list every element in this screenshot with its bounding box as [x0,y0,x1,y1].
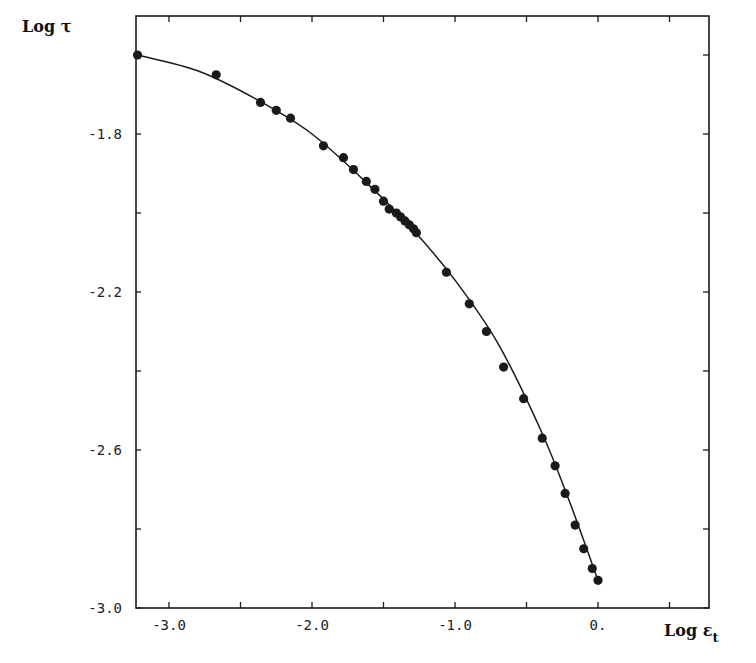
data-point [538,434,547,443]
data-point [561,489,570,498]
y-tick-label: -3.0 [88,600,122,616]
data-point [519,394,528,403]
data-point [370,185,379,194]
data-point [571,520,580,529]
data-point [256,98,265,107]
data-point [272,106,281,115]
data-point [588,564,597,573]
data-point [133,50,142,59]
y-tick-label: -1.8 [88,126,122,142]
data-point [379,197,388,206]
data-point [482,327,491,336]
x-axis-title-sub: t [712,630,718,645]
tick-labels: -3.0-2.0-1.00.-1.8-2.2-2.6-3.0 [88,126,606,633]
data-point [362,177,371,186]
fitted-curve [138,55,598,580]
data-point [349,165,358,174]
y-tick-label: -2.6 [88,442,122,458]
y-tick-label: -2.2 [88,284,122,300]
plot-border [136,16,709,608]
data-point [212,70,221,79]
x-tick-label: -1.0 [438,617,472,633]
data-point [339,153,348,162]
data-points [133,50,603,585]
data-point [579,544,588,553]
data-point [551,461,560,470]
data-point [412,228,421,237]
data-point [499,362,508,371]
plot-frame [136,16,709,608]
y-axis-title: Log τ [22,17,71,36]
data-point [286,114,295,123]
curve-path [138,55,598,580]
chart: -3.0-2.0-1.00.-1.8-2.2-2.6-3.0 Log τ Log… [0,0,756,663]
data-point [593,576,602,585]
data-point [465,299,474,308]
x-tick-label: 0. [590,617,607,633]
x-axis-title: Log εt [664,621,718,645]
axis-ticks [136,16,709,608]
x-axis-title-main: Log ε [664,621,712,640]
data-point [442,268,451,277]
x-tick-label: -2.0 [295,617,329,633]
data-point [319,141,328,150]
x-tick-label: -3.0 [152,617,186,633]
